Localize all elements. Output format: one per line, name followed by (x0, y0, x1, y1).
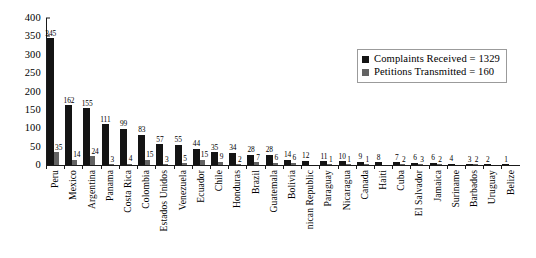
bar-petitions: 6 (291, 163, 296, 165)
bar-group: 32 (465, 18, 483, 165)
bar-petitions: 35 (54, 152, 59, 165)
x-axis-label-cell: Uruguay (483, 170, 501, 256)
bar-group: 101 (338, 18, 356, 165)
legend-swatch-complaints-icon (362, 56, 369, 63)
bar-complaints: 155 (83, 108, 90, 165)
bar-value-label: 28 (266, 146, 273, 153)
x-axis-label-cell: Brazil (246, 170, 264, 256)
x-axis-tick-mark (82, 166, 83, 169)
bar-petitions: 6 (273, 163, 278, 165)
bar-value-label: 3 (420, 156, 424, 163)
bar-complaints: 162 (65, 105, 72, 165)
plot-area: 050100150200250300350400 345351621415524… (46, 18, 520, 165)
bar-value-label: 44 (193, 140, 200, 147)
bar-group: 359 (210, 18, 228, 165)
x-axis-label: Brazil (251, 170, 261, 194)
x-axis-label-cell: Belize (501, 170, 519, 256)
bar-value-label: 4 (129, 155, 133, 162)
bar-petitions: 3 (109, 164, 114, 165)
legend-label-complaints: Complaints Received = 1329 (374, 54, 500, 65)
x-axis-tick-mark (192, 166, 193, 169)
x-axis-label-cell: Costa Rica (119, 170, 137, 256)
bar-group: 573 (155, 18, 173, 165)
bar-petitions: 7 (254, 162, 259, 165)
bar-value-label: 162 (64, 97, 75, 104)
bar-complaints: 9 (357, 162, 364, 165)
x-axis-tick-mark (338, 166, 339, 169)
x-axis-label: Chile (214, 170, 224, 191)
x-axis-label: Mexico (69, 170, 79, 200)
bar-value-label: 14 (284, 151, 291, 158)
bar-complaints: 11 (320, 161, 327, 165)
bar-group: 286 (265, 18, 283, 165)
x-axis-label-cell: Canada (356, 170, 374, 256)
bar-group: 91 (356, 18, 374, 165)
bar-value-label: 7 (395, 154, 399, 161)
bar-value-label: 10 (339, 153, 346, 160)
x-axis-labels: PeruMexicoArgentinaPanamaCosta RicaColom… (46, 170, 520, 256)
x-axis-label-cell: nican Republic (301, 170, 319, 256)
x-axis-tick-mark (210, 166, 211, 169)
bar-value-label: 35 (55, 144, 62, 151)
bar-group: 994 (119, 18, 137, 165)
x-axis-tick-mark (465, 166, 466, 169)
bar-group: 8315 (137, 18, 155, 165)
legend-swatch-petitions-icon (362, 69, 369, 76)
x-axis-label-cell: Chile (210, 170, 228, 256)
x-axis-label: Honduras (233, 170, 243, 208)
bar-value-label: 99 (120, 120, 127, 127)
x-axis-label-cell: Colombia (137, 170, 155, 256)
bar-group: 555 (174, 18, 192, 165)
x-axis-label-cell: Peru (46, 170, 64, 256)
bar-value-label: 7 (256, 154, 260, 161)
x-axis-label-cell: Suriname (447, 170, 465, 256)
x-axis-tick-mark (101, 166, 102, 169)
bar-group: 287 (246, 18, 264, 165)
bar-group: 111 (319, 18, 337, 165)
bar-value-label: 3 (165, 156, 169, 163)
bar-group: 146 (283, 18, 301, 165)
bar-group: 12 (301, 18, 319, 165)
y-axis-tick-label: 50 (30, 141, 46, 152)
bar-complaints: 6 (411, 163, 418, 165)
bar-petitions: 2 (473, 164, 478, 165)
x-axis-label-cell: Argentina (82, 170, 100, 256)
bar-complaints: 12 (302, 161, 309, 165)
x-axis-label-cell: Estados Unidos (155, 170, 173, 256)
x-axis-tick-mark (137, 166, 138, 169)
bar-value-label: 14 (73, 151, 80, 158)
bar-complaints: 6 (430, 163, 437, 165)
y-axis-tick-label: 250 (25, 68, 46, 79)
x-axis-tick-mark (429, 166, 430, 169)
x-axis-label: Venezuela (178, 170, 188, 210)
bar-value-label: 111 (100, 116, 110, 123)
bar-value-label: 2 (238, 156, 242, 163)
bar-petitions: 5 (182, 163, 187, 165)
x-axis-label: Ecuador (196, 170, 206, 203)
x-axis-tick-mark (64, 166, 65, 169)
x-axis-tick-mark (501, 166, 502, 169)
bar-value-label: 6 (274, 154, 278, 161)
bar-value-label: 1 (365, 156, 369, 163)
bar-value-label: 2 (486, 156, 490, 163)
bar-series-group: 3453516214155241113994831557355544153593… (46, 18, 520, 165)
bar-value-label: 155 (82, 100, 93, 107)
bar-group: 2 (483, 18, 501, 165)
bar-group: 16214 (64, 18, 82, 165)
x-axis-label: Argentina (87, 170, 97, 209)
x-axis-label: Paraguay (324, 170, 334, 207)
bar-group: 8 (374, 18, 392, 165)
bar-group: 15524 (82, 18, 100, 165)
x-axis-label: El Salvador (415, 170, 425, 216)
x-axis-label-cell: Venezuela (174, 170, 192, 256)
chart-legend: Complaints Received = 1329 Petitions Tra… (357, 49, 507, 83)
bar-complaints: 34 (229, 153, 236, 165)
x-axis-label: nican Republic (305, 170, 315, 229)
bar-value-label: 15 (146, 151, 153, 158)
bar-petitions: 4 (127, 164, 132, 165)
bar-value-label: 1 (329, 156, 333, 163)
bar-complaints: 345 (47, 38, 54, 165)
bar-complaints: 4 (448, 164, 455, 165)
x-axis-tick-mark (46, 166, 47, 169)
bar-value-label: 35 (211, 144, 218, 151)
